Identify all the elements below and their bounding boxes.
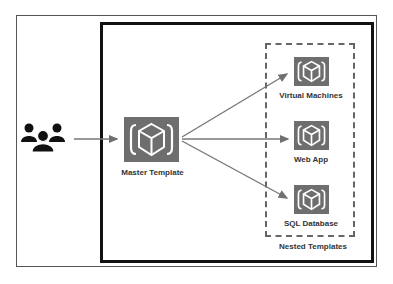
sql-database-label: SQL Database	[270, 219, 352, 228]
sql-database-icon	[294, 185, 329, 214]
master-template-icon	[124, 117, 179, 162]
web-app-icon	[294, 121, 329, 150]
web-app-label: Web App	[270, 155, 352, 164]
arrow-master-to-vm	[182, 74, 287, 137]
nested-templates-label: Nested Templates	[268, 242, 358, 251]
arrow-master-to-sql	[182, 141, 287, 198]
master-template-label: Master Template	[110, 168, 195, 177]
users-group-icon	[21, 123, 65, 152]
virtual-machines-icon	[294, 57, 329, 86]
virtual-machines-label: Virtual Machines	[270, 91, 352, 100]
